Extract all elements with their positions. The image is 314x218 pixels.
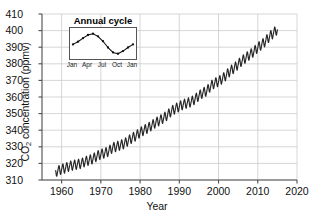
inset-month-label: Jul [98,61,106,69]
y-axis-title-subscript: 2 [24,142,33,146]
inset-plot-area [69,27,137,60]
inset-month-label: Oct [112,61,122,69]
x-tick-label: 1980 [128,186,151,197]
inset-month-label: Jan [127,61,137,69]
inset-title: Annual cycle [66,15,140,26]
inset-month-label: Apr [82,61,92,69]
y-axis-title-suffix: concentration (ppmv) [19,42,31,141]
inset-chart-svg [70,28,136,59]
x-axis-tick-labels: 1960197019801990200020102020 [0,0,314,218]
x-tick-label: 2010 [246,186,269,197]
inset-month-labels: JanAprJulOctJan [66,61,140,71]
y-axis-title: CO2 concentration (ppmv) [19,17,31,187]
annual-cycle-inset: Annual cycle JanAprJulOctJan [66,15,140,73]
co2-keeling-curve-figure: 310320330340350360370380390400410 196019… [0,0,314,218]
x-axis-title: Year [0,200,314,212]
annual-cycle-markers [72,33,134,55]
inset-month-label: Jan [67,61,77,69]
x-tick-label: 1990 [168,186,191,197]
x-tick-label: 1970 [89,186,112,197]
x-tick-label: 2000 [207,186,230,197]
y-axis-title-prefix: CO [19,146,31,162]
x-tick-label: 2020 [285,186,308,197]
x-tick-label: 1960 [50,186,73,197]
